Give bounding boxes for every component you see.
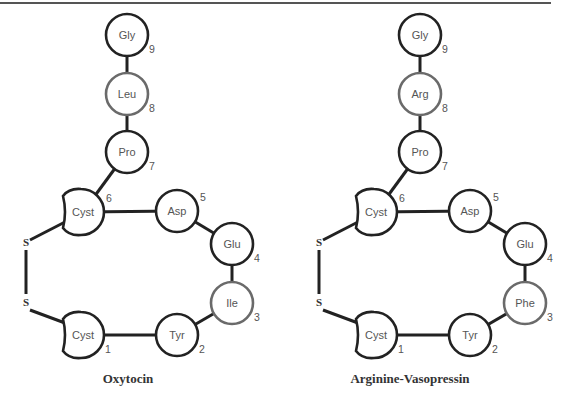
residue-glu-4: Glu4 <box>211 223 260 265</box>
residue-index: 9 <box>442 43 448 55</box>
sulfur-label: S <box>316 296 322 308</box>
residue-cyst-1: Cyst1 <box>63 312 111 358</box>
residue-label: Asp <box>461 205 480 217</box>
residue-label: Arg <box>411 88 428 100</box>
disulfide-bond <box>30 222 65 240</box>
disulfide-bond <box>323 222 358 240</box>
residue-label: Leu <box>118 88 136 100</box>
residue-glu-4: Glu4 <box>504 223 553 265</box>
residue-index: 5 <box>200 191 206 203</box>
residue-gly-9: Gly9 <box>106 14 155 56</box>
residue-index: 2 <box>199 343 205 355</box>
residue-index: 1 <box>105 343 111 355</box>
residue-label: Tyr <box>169 329 185 341</box>
disulfide-bond <box>30 310 65 323</box>
residue-label: Phe <box>515 297 535 309</box>
residue-asp-5: Asp5 <box>449 190 499 232</box>
residue-index: 2 <box>492 343 498 355</box>
title-arginine-vasopressin: Arginine-Vasopressin <box>350 371 470 386</box>
residue-index: 8 <box>149 102 155 114</box>
molecule-arginine-vasopressin: SSCyst1Tyr2Phe3Glu4Asp5Cyst6Pro7Arg8Gly9 <box>316 14 553 358</box>
disulfide-bond <box>323 310 358 323</box>
residue-tyr-2: Tyr2 <box>156 314 205 356</box>
residue-tyr-2: Tyr2 <box>449 314 498 356</box>
residue-label: Glu <box>516 238 533 250</box>
residue-index: 4 <box>547 252 553 264</box>
residue-label: Asp <box>168 205 187 217</box>
residue-cyst-6: Cyst6 <box>63 189 112 235</box>
residue-label: Ile <box>226 297 238 309</box>
residue-asp-5: Asp5 <box>156 190 206 232</box>
residue-gly-9: Gly9 <box>399 14 448 56</box>
molecule-titles: Oxytocin Arginine-Vasopressin <box>103 371 471 386</box>
residue-pro-7: Pro7 <box>106 131 155 173</box>
residue-index: 1 <box>398 343 404 355</box>
residue-label: Glu <box>223 238 240 250</box>
residue-label: Cyst <box>365 329 387 341</box>
residue-label: Cyst <box>72 329 94 341</box>
residue-index: 7 <box>149 160 155 172</box>
title-oxytocin: Oxytocin <box>103 371 154 386</box>
residue-index: 8 <box>442 102 448 114</box>
residue-label: Gly <box>412 29 429 41</box>
residue-leu-8: Leu8 <box>106 73 155 115</box>
residue-index: 9 <box>149 43 155 55</box>
residue-index: 3 <box>254 311 260 323</box>
residue-index: 6 <box>106 192 112 204</box>
residue-cyst-6: Cyst6 <box>356 189 405 235</box>
residue-phe-3: Phe3 <box>504 282 553 324</box>
residue-label: Pro <box>118 146 135 158</box>
sulfur-label: S <box>316 236 322 248</box>
peptide-structure-diagram: SSCyst1Tyr2Ile3Glu4Asp5Cyst6Pro7Leu8Gly9… <box>0 0 563 404</box>
sulfur-label: S <box>23 236 29 248</box>
sulfur-label: S <box>23 296 29 308</box>
residue-label: Gly <box>119 29 136 41</box>
residue-arg-8: Arg8 <box>399 73 448 115</box>
residue-index: 6 <box>399 192 405 204</box>
residue-cyst-1: Cyst1 <box>356 312 404 358</box>
residue-index: 4 <box>254 252 260 264</box>
residue-index: 7 <box>442 160 448 172</box>
residue-index: 3 <box>547 311 553 323</box>
molecule-oxytocin: SSCyst1Tyr2Ile3Glu4Asp5Cyst6Pro7Leu8Gly9 <box>23 14 260 358</box>
residue-label: Tyr <box>462 329 478 341</box>
residue-index: 5 <box>493 191 499 203</box>
residue-ile-3: Ile3 <box>211 282 260 324</box>
residue-label: Pro <box>411 146 428 158</box>
residue-label: Cyst <box>72 206 94 218</box>
residue-label: Cyst <box>365 206 387 218</box>
residue-pro-7: Pro7 <box>399 131 448 173</box>
